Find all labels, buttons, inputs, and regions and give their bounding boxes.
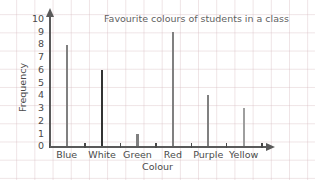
y-tick-label-0: 0	[38, 142, 44, 152]
y-tick-label-8: 8	[38, 40, 44, 50]
bar-blue	[66, 45, 68, 147]
x-tick-mark-0	[49, 143, 50, 148]
x-category-label-white: White	[88, 149, 116, 160]
x-category-label-green: Green	[123, 149, 152, 160]
y-axis-title: Frequency	[17, 48, 28, 128]
y-tick-label-5: 5	[38, 78, 44, 88]
y-axis-arrow-icon	[46, 8, 54, 17]
y-tick-label-4: 4	[38, 91, 44, 101]
bar-chart: Favourite colours of students in a class…	[0, 0, 315, 180]
x-axis-line	[49, 146, 268, 148]
x-category-label-yellow: Yellow	[229, 149, 258, 160]
x-category-label-purple: Purple	[193, 149, 223, 160]
y-axis-line	[49, 16, 51, 148]
x-category-label-blue: Blue	[56, 149, 77, 160]
chart-page: Favourite colours of students in a class…	[0, 0, 315, 180]
bar-green	[136, 134, 138, 147]
y-tick-label-6: 6	[38, 65, 44, 75]
x-tick-mark-4	[191, 143, 192, 148]
bar-purple	[207, 95, 209, 146]
y-tick-label-10: 10	[32, 14, 44, 24]
x-axis-title: Colour	[0, 161, 315, 172]
x-category-label-red: Red	[164, 149, 182, 160]
bar-red	[172, 32, 174, 147]
bar-yellow	[243, 108, 245, 146]
x-tick-mark-5	[226, 143, 227, 148]
x-tick-mark-6	[261, 143, 262, 148]
bar-white	[101, 70, 103, 146]
y-tick-label-2: 2	[38, 116, 44, 126]
y-tick-label-7: 7	[38, 52, 44, 62]
chart-title: Favourite colours of students in a class	[104, 13, 289, 24]
y-tick-label-9: 9	[38, 27, 44, 37]
x-axis-arrow-icon	[266, 143, 275, 151]
x-tick-mark-3	[155, 143, 156, 148]
x-tick-mark-1	[84, 143, 85, 148]
x-tick-mark-2	[120, 143, 121, 148]
y-tick-label-1: 1	[38, 129, 44, 139]
y-tick-label-3: 3	[38, 103, 44, 113]
